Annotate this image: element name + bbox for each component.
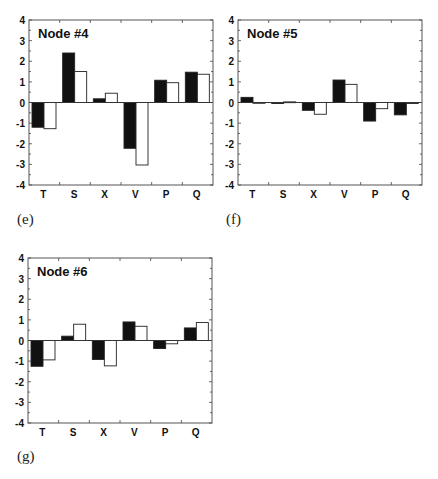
y-tick-label: -3 [16, 159, 25, 170]
x-tick-label: V [341, 189, 348, 200]
y-tick-label: 2 [228, 56, 234, 67]
bar-black-S [63, 53, 75, 103]
bar-black-T [32, 103, 44, 128]
bar-white-S [74, 324, 86, 340]
bar-white-X [314, 103, 326, 115]
bar-black-X [92, 341, 104, 360]
x-tick-label: T [40, 189, 46, 200]
bar-black-Q [394, 103, 406, 115]
x-tick-label: P [163, 189, 170, 200]
y-tick-label: 3 [18, 274, 24, 285]
y-tick-label: -3 [15, 397, 24, 408]
bar-black-P [155, 80, 167, 102]
chart-panel-node-6: 43210-1-2-3-4TSXVPQNode #6 [0, 238, 220, 442]
y-tick-label: 4 [19, 15, 25, 26]
x-tick-label: Q [192, 427, 200, 438]
y-tick-label: 2 [18, 294, 24, 305]
chart-title: Node #5 [247, 26, 298, 41]
panel-label-g: (g) [17, 448, 35, 465]
bar-chart-node-4: 43210-1-2-3-4TSXVPQNode #4 [0, 0, 220, 200]
bar-black-T [241, 97, 253, 102]
bar-black-Q [185, 72, 197, 102]
panel-label-f: (f) [226, 211, 241, 228]
y-tick-label: -2 [15, 377, 24, 388]
bar-chart-node-6: 43210-1-2-3-4TSXVPQNode #6 [0, 238, 220, 438]
bar-white-P [167, 83, 179, 103]
y-tick-label: 1 [18, 315, 24, 326]
x-tick-label: V [131, 427, 138, 438]
y-tick-label: 0 [19, 98, 25, 109]
x-tick-label: X [310, 189, 317, 200]
y-tick-label: -4 [16, 180, 25, 191]
y-tick-label: 1 [228, 77, 234, 88]
x-tick-label: X [101, 189, 108, 200]
y-tick-label: 1 [19, 77, 25, 88]
y-tick-label: 2 [19, 56, 25, 67]
bar-white-Q [197, 74, 209, 102]
bar-black-P [364, 103, 376, 122]
bar-black-Q [184, 328, 196, 341]
bar-black-P [154, 341, 166, 349]
y-tick-label: -1 [225, 118, 234, 129]
y-tick-label: 0 [18, 336, 24, 347]
bar-white-T [44, 103, 56, 129]
x-tick-label: Q [193, 189, 201, 200]
y-tick-label: -2 [225, 139, 234, 150]
bar-black-V [123, 322, 135, 341]
y-tick-label: -1 [16, 118, 25, 129]
y-tick-label: -2 [16, 139, 25, 150]
y-tick-label: -4 [225, 180, 234, 191]
chart-title: Node #4 [38, 26, 89, 41]
bar-white-V [135, 326, 147, 340]
x-tick-label: P [372, 189, 379, 200]
y-tick-label: 0 [228, 98, 234, 109]
bar-black-V [124, 103, 136, 149]
bar-chart-node-5: 43210-1-2-3-4TSXVPQNode #5 [209, 0, 438, 200]
x-tick-label: S [71, 189, 78, 200]
x-tick-label: T [39, 427, 45, 438]
bar-white-V [136, 103, 148, 165]
bar-white-Q [196, 323, 208, 341]
x-tick-label: T [249, 189, 255, 200]
bar-white-X [105, 93, 117, 102]
bar-black-S [62, 336, 74, 340]
x-tick-label: S [70, 427, 77, 438]
y-tick-label: -4 [15, 418, 24, 429]
y-tick-label: 4 [18, 253, 24, 264]
bar-white-T [43, 341, 55, 360]
panel-label-e: (e) [17, 211, 34, 228]
bar-white-P [376, 103, 388, 109]
x-tick-label: P [162, 427, 169, 438]
bar-black-V [333, 80, 345, 102]
y-tick-label: 3 [19, 36, 25, 47]
y-tick-label: -3 [225, 159, 234, 170]
bar-black-X [93, 99, 105, 103]
y-tick-label: 3 [228, 36, 234, 47]
chart-title: Node #6 [37, 264, 88, 279]
bar-white-S [75, 72, 87, 103]
bar-black-X [302, 103, 314, 111]
x-tick-label: V [132, 189, 139, 200]
y-tick-label: 4 [228, 15, 234, 26]
y-tick-label: -1 [15, 356, 24, 367]
bar-black-T [31, 341, 43, 367]
bar-white-X [104, 341, 116, 366]
x-tick-label: S [280, 189, 287, 200]
chart-panel-node-4: 43210-1-2-3-4TSXVPQNode #4 [0, 0, 220, 204]
x-tick-label: Q [402, 189, 410, 200]
chart-panel-node-5: 43210-1-2-3-4TSXVPQNode #5 [209, 0, 438, 204]
x-tick-label: X [100, 427, 107, 438]
bar-white-V [345, 84, 357, 102]
